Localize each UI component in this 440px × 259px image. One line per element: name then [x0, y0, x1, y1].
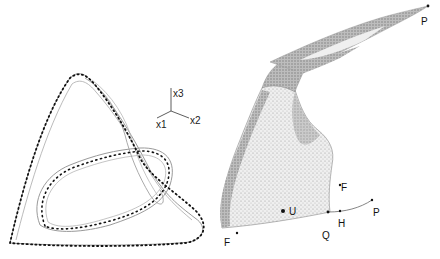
label-F-upper: F: [341, 182, 347, 193]
twist-manifold-2: [92, 80, 158, 196]
point-P-top: [427, 5, 430, 8]
figure-canvas: x3 x1 x2 P P F: [0, 0, 440, 259]
point-Q: [327, 211, 330, 214]
axis-label-x2: x2: [190, 115, 201, 126]
label-H: H: [338, 218, 345, 229]
right-panel-surface: P P F F U H Q: [220, 5, 429, 248]
label-F-lower: F: [224, 237, 230, 248]
axis-label-x1: x1: [156, 119, 167, 130]
trajectory-dots-inner: [42, 151, 169, 229]
axes-indicator: x3 x1 x2: [156, 88, 201, 130]
label-P-top: P: [421, 16, 428, 27]
left-panel-orbit: [10, 74, 204, 246]
point-H: [339, 210, 341, 212]
point-F-lower: [236, 232, 238, 234]
axis-label-x3: x3: [173, 88, 184, 99]
label-U: U: [289, 206, 296, 217]
label-Q: Q: [322, 230, 330, 241]
point-U: [281, 209, 285, 213]
curve-Q-H-P: [328, 200, 372, 212]
label-P-right: P: [373, 207, 380, 218]
point-P-right: [371, 199, 373, 201]
